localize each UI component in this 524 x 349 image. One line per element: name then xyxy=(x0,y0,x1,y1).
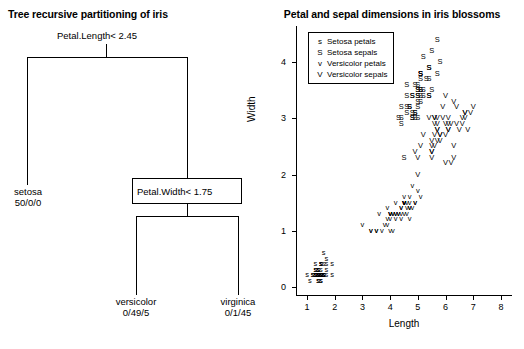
x-axis-label: Length xyxy=(296,318,512,329)
plot-area: 12345678 01234 sssssssssssssssssssssssss… xyxy=(296,26,512,296)
x-tick-mark xyxy=(418,296,419,300)
tree-edge-second-horizontal xyxy=(136,216,238,217)
data-point: V xyxy=(451,98,456,106)
y-tick-label: 4 xyxy=(281,57,286,67)
legend-key-versicolor-sepals: V xyxy=(313,70,327,79)
tree-title: Tree recursive partitioning of iris xyxy=(8,8,248,20)
y-tick-label: 3 xyxy=(281,113,286,123)
y-tick-mark xyxy=(292,231,296,232)
x-tick-label: 4 xyxy=(388,302,393,312)
tree-leaf-versicolor-counts: 0/49/5 xyxy=(96,307,176,319)
data-point: S xyxy=(404,92,409,100)
data-point: v xyxy=(402,193,406,201)
x-tick-label: 2 xyxy=(332,302,337,312)
data-point: V xyxy=(454,120,459,128)
y-tick-label: 1 xyxy=(281,226,286,236)
legend-item-setosa-petals: s Setosa petals xyxy=(313,36,387,47)
x-tick-label: 7 xyxy=(471,302,476,312)
data-point: V xyxy=(468,109,473,117)
x-tick-label: 6 xyxy=(443,302,448,312)
x-tick-label: 3 xyxy=(360,302,365,312)
data-point: V xyxy=(426,115,431,123)
y-tick-mark xyxy=(292,175,296,176)
data-point: v xyxy=(405,204,409,212)
legend-item-versicolor-petals: v Versicolor petals xyxy=(313,58,387,69)
x-tick-mark xyxy=(473,296,474,300)
legend-item-setosa-sepals: S Setosa sepals xyxy=(313,47,387,58)
scatter-title: Petal and sepal dimensions in iris bloss… xyxy=(260,8,524,20)
data-point: V xyxy=(451,154,456,162)
y-axis-line xyxy=(296,26,297,296)
data-point: S xyxy=(421,53,426,61)
x-tick-mark xyxy=(362,296,363,300)
tree-panel: Tree recursive partitioning of iris Peta… xyxy=(0,0,252,349)
tree-edge-right xyxy=(187,57,188,178)
legend-key-setosa-sepals: S xyxy=(313,48,327,57)
data-point: V xyxy=(415,154,420,162)
y-tick-label: 2 xyxy=(281,170,286,180)
data-point: S xyxy=(401,154,406,162)
tree-leaf-setosa-counts: 50/0/0 xyxy=(0,197,56,209)
data-point: S xyxy=(404,81,409,89)
data-point: s xyxy=(322,249,326,257)
data-point: V xyxy=(437,137,442,145)
x-tick-mark xyxy=(501,296,502,300)
tree-edge-root-stem xyxy=(106,44,107,57)
data-point: s xyxy=(316,272,320,280)
data-point: V xyxy=(451,143,456,151)
legend-item-versicolor-sepals: V Versicolor sepals xyxy=(313,69,387,80)
data-point: S xyxy=(424,75,429,83)
data-point: v xyxy=(391,227,395,235)
data-point: s xyxy=(330,272,334,280)
x-tick-mark xyxy=(335,296,336,300)
data-point: V xyxy=(443,132,448,140)
data-point: S xyxy=(429,47,434,55)
data-point: v xyxy=(374,227,378,235)
data-point: S xyxy=(410,115,415,123)
tree-edge-left xyxy=(27,57,28,185)
y-axis-label: Width xyxy=(246,96,257,122)
data-point: v xyxy=(361,221,365,229)
data-point: V xyxy=(415,171,420,179)
data-point: v xyxy=(408,216,412,224)
data-point: V xyxy=(462,109,467,117)
x-tick-label: 8 xyxy=(498,302,503,312)
y-tick-mark xyxy=(292,287,296,288)
data-point: S xyxy=(429,87,434,95)
legend-key-versicolor-petals: v xyxy=(313,59,327,68)
x-tick-mark xyxy=(446,296,447,300)
data-point: S xyxy=(435,36,440,44)
data-point: S xyxy=(415,87,420,95)
data-point: S xyxy=(415,98,420,106)
tree-root-split-label: Petal.Length< 2.45 xyxy=(57,30,137,41)
tree-edge-second-left xyxy=(136,216,137,295)
data-point: S xyxy=(426,64,431,72)
y-tick-label: 0 xyxy=(281,282,286,292)
data-point: S xyxy=(410,92,415,100)
data-point: v xyxy=(391,210,395,218)
legend-label-versicolor-sepals: Versicolor sepals xyxy=(327,70,387,79)
data-point: v xyxy=(419,193,423,201)
data-point: V xyxy=(443,92,448,100)
scatter-panel: Petal and sepal dimensions in iris bloss… xyxy=(252,0,524,349)
data-point: v xyxy=(369,227,373,235)
legend-label-versicolor-petals: Versicolor petals xyxy=(327,59,386,68)
data-point: S xyxy=(437,59,442,67)
data-point: V xyxy=(418,143,423,151)
y-tick-mark xyxy=(292,62,296,63)
x-axis-line xyxy=(296,295,512,296)
data-point: V xyxy=(465,126,470,134)
data-point: v xyxy=(394,199,398,207)
tree-second-split-label: Petal.Width< 1.75 xyxy=(137,186,212,197)
x-tick-mark xyxy=(390,296,391,300)
legend: s Setosa petals S Setosa sepals v Versic… xyxy=(308,32,394,84)
data-point: V xyxy=(421,132,426,140)
legend-label-setosa-petals: Setosa petals xyxy=(327,37,375,46)
tree-edge-second-stem xyxy=(187,204,188,216)
data-point: v xyxy=(397,210,401,218)
tree-edge-root-horizontal xyxy=(27,57,187,58)
data-point: v xyxy=(377,210,381,218)
data-point: S xyxy=(404,104,409,112)
data-point: V xyxy=(443,160,448,168)
data-point: V xyxy=(440,104,445,112)
